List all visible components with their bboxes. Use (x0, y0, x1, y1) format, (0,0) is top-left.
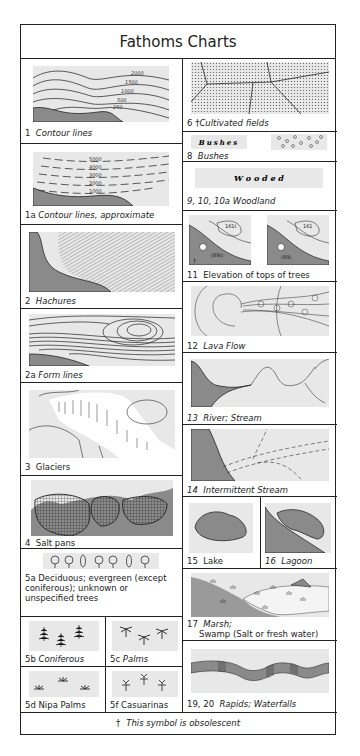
hachures-icon (29, 232, 175, 292)
symbol-label: 2a Form lines (25, 370, 83, 380)
svg-text:2000: 2000 (89, 180, 102, 186)
symbol-coniferous: 5b Coniferous (21, 617, 106, 667)
approximate-contour-icon: 5000 4000 3000 2000 1000 (33, 152, 169, 206)
intermittent-stream-icon (191, 429, 329, 481)
symbol-label: 5d Nipa Palms (25, 700, 86, 710)
symbol-label: 8 Bushes (187, 151, 229, 161)
svg-text:1000: 1000 (121, 88, 134, 94)
bushes-icon (271, 134, 327, 150)
svg-text:†: † (193, 257, 196, 264)
symbol-label: 14 Intermittent Stream (187, 485, 288, 495)
lava-flow-icon (191, 286, 329, 336)
symbol-lava-flow: 12 Lava Flow (183, 282, 337, 353)
form-lines-icon (29, 314, 175, 366)
tree-elevation-icon: 161t (89t) † (189, 215, 251, 265)
chart-sheet: Fathoms Charts 2000 1500 1000 500 250 (20, 24, 336, 735)
symbol-label: 5f Casuarinas (110, 700, 168, 710)
svg-text:500: 500 (117, 97, 127, 103)
svg-text:(89): (89) (281, 254, 291, 260)
symbol-label: 5a Deciduous; evergreen (except conifero… (25, 573, 175, 603)
symbol-nipa-palms: 5d Nipa Palms (21, 667, 106, 713)
trees-icon (43, 553, 159, 569)
symbol-palms: 5c Palms (106, 617, 183, 667)
svg-text:(89t): (89t) (211, 252, 223, 258)
salt-pans-icon (31, 480, 173, 536)
symbol-deciduous-trees: 5a Deciduous; evergreen (except conifero… (21, 549, 183, 617)
symbol-label: 5c Palms (110, 654, 148, 664)
symbol-label-line2: Swamp (Salt or fresh water) (199, 629, 318, 639)
symbol-label: 1a Contour lines, approximate (25, 210, 154, 220)
symbol-label: 2 Hachures (25, 296, 76, 306)
symbol-label: 6 †Cultivated fields (187, 118, 269, 128)
glaciers-icon (29, 390, 175, 458)
svg-text:161: 161 (303, 223, 313, 229)
contour-lines-icon: 2000 1500 1000 500 250 (33, 66, 169, 122)
symbol-label: 5b Coniferous (25, 654, 84, 664)
svg-text:4000: 4000 (89, 164, 102, 170)
lagoon-icon (265, 503, 331, 553)
lake-icon (189, 503, 253, 553)
symbol-contour-lines-approximate: 5000 4000 3000 2000 1000 1a Contour line… (21, 144, 183, 225)
rapids-icon (191, 649, 329, 693)
symbol-label: 3 Glaciers (25, 462, 70, 472)
river-icon (191, 359, 329, 407)
cultivated-fields-icon (191, 62, 329, 114)
svg-text:1500: 1500 (125, 79, 138, 85)
obsolescent-footnote: † This symbol is obsolescent (21, 712, 335, 734)
obsolete-dagger-icon: † (116, 718, 120, 728)
symbol-label: 16 Lagoon (265, 556, 312, 566)
symbol-lake: 15 Lake (183, 497, 261, 569)
svg-text:5000: 5000 (89, 156, 102, 162)
symbol-marsh-swamp: 17 Marsh; Swamp (Salt or fresh water) (183, 569, 337, 641)
page-title: Fathoms Charts (21, 25, 335, 59)
symbol-rapids-waterfalls: 19, 20 Rapids; Waterfalls (183, 641, 337, 713)
casuarinas-icon (112, 671, 178, 697)
symbol-hachures: 2 Hachures (21, 225, 183, 309)
svg-text:3000: 3000 (89, 172, 102, 178)
marsh-icon (191, 573, 329, 617)
symbol-form-lines: 2a Form lines (21, 309, 183, 383)
svg-text:2000: 2000 (131, 70, 144, 76)
symbol-glaciers: 3 Glaciers (21, 383, 183, 476)
palms-icon (112, 621, 178, 651)
symbol-label: 17 Marsh; (187, 619, 232, 629)
symbol-label: 9, 10, 10a Woodland (187, 196, 275, 206)
symbol-intermittent-stream: 14 Intermittent Stream (183, 425, 337, 497)
symbol-salt-pans: 4 Salt pans (21, 476, 183, 549)
symbol-label: 19, 20 Rapids; Waterfalls (187, 699, 296, 709)
symbol-label: 13 River; Stream (187, 413, 262, 423)
symbol-label: 11 Elevation of tops of trees (187, 270, 310, 280)
symbol-woodland: W o o d e d 9, 10, 10a Woodland (183, 162, 337, 211)
symbol-label: 1 Contour lines (25, 128, 92, 138)
symbol-elevation-tops-of-trees: 161t (89t) † 161 (89) 11 Elevation of to… (183, 211, 337, 282)
symbol-cultivated-fields: 6 †Cultivated fields (183, 58, 337, 132)
svg-text:161t: 161t (225, 223, 237, 229)
nipa-palms-icon (29, 671, 99, 697)
symbol-label: 12 Lava Flow (187, 341, 246, 351)
symbol-lagoon: 16 Lagoon (261, 497, 337, 569)
symbol-casuarinas: 5f Casuarinas (106, 667, 183, 713)
coniferous-icon (29, 621, 99, 651)
symbol-label: 15 Lake (187, 556, 223, 566)
symbol-river-stream: 13 River; Stream (183, 353, 337, 425)
svg-text:250: 250 (113, 104, 123, 110)
tree-elevation-icon: 161 (89) (267, 215, 329, 265)
symbol-label: 4 Salt pans (25, 538, 75, 548)
symbol-bushes: Bushes 8 Bushes (183, 132, 337, 162)
svg-text:1000: 1000 (89, 188, 102, 194)
symbol-contour-lines: 2000 1500 1000 500 250 1 Contour lines (21, 58, 183, 144)
